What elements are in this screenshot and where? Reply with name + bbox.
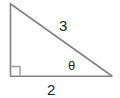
right-angle-marker-icon — [12, 67, 21, 76]
triangle-diagram: 3 θ 2 — [0, 0, 120, 98]
theta-angle-label: θ — [68, 59, 75, 72]
base-label: 2 — [47, 82, 55, 97]
hypotenuse-line — [10, 4, 112, 77]
triangle-graphic — [0, 0, 120, 98]
hypotenuse-label: 3 — [59, 18, 67, 33]
